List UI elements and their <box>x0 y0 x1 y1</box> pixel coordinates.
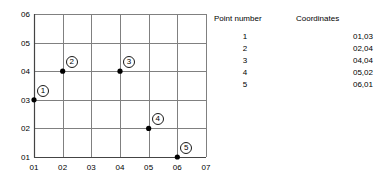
cell-point-number: 3 <box>214 56 276 68</box>
x-axis-tick-label: 01 <box>29 163 38 172</box>
y-axis-tick-label: 06 <box>21 10 30 19</box>
table-header-row: Point number Coordinates <box>214 14 379 32</box>
table-row: 405,02 <box>214 68 379 80</box>
table-row: 304,04 <box>214 56 379 68</box>
column-header-coordinates: Coordinates <box>276 14 379 32</box>
data-point-marker <box>60 69 65 74</box>
cell-coordinates: 01,03 <box>276 32 379 44</box>
y-axis-tick-label: 01 <box>21 153 30 162</box>
x-axis-tick-label: 05 <box>144 163 153 172</box>
scatter-plot-figure: 01020304050607010203040506 12345 <box>0 0 230 189</box>
data-point-marker <box>117 69 122 74</box>
column-header-point-number: Point number <box>214 14 276 32</box>
cell-coordinates: 06,01 <box>276 80 379 92</box>
data-point-marker <box>146 126 151 131</box>
x-axis-tick-label: 03 <box>87 163 96 172</box>
y-axis-tick-label: 02 <box>21 124 30 133</box>
point-label-badge: 3 <box>123 56 135 68</box>
table-row: 202,04 <box>214 44 379 56</box>
cell-point-number: 2 <box>214 44 276 56</box>
x-axis-tick-label: 04 <box>115 163 124 172</box>
point-label-badge: 1 <box>37 85 49 97</box>
point-label-badge: 5 <box>180 142 192 154</box>
point-label-badge: 4 <box>152 113 164 125</box>
y-axis-tick-label: 03 <box>21 95 30 104</box>
data-point-marker <box>31 97 36 102</box>
cell-coordinates: 04,04 <box>276 56 379 68</box>
plot-canvas <box>0 0 230 189</box>
table-row: 101,03 <box>214 32 379 44</box>
cell-point-number: 5 <box>214 80 276 92</box>
cell-coordinates: 05,02 <box>276 68 379 80</box>
x-axis-tick-label: 07 <box>201 163 210 172</box>
y-axis-tick-label: 05 <box>21 38 30 47</box>
table-body: 101,03202,04304,04405,02506,01 <box>214 32 379 92</box>
point-coordinates-table: Point number Coordinates 101,03202,04304… <box>214 14 379 92</box>
data-point-marker <box>175 154 180 159</box>
point-label-badge: 2 <box>66 56 78 68</box>
table-row: 506,01 <box>214 80 379 92</box>
cell-coordinates: 02,04 <box>276 44 379 56</box>
cell-point-number: 4 <box>214 68 276 80</box>
cell-point-number: 1 <box>214 32 276 44</box>
x-axis-tick-label: 02 <box>58 163 67 172</box>
y-axis-tick-label: 04 <box>21 67 30 76</box>
x-axis-tick-label: 06 <box>173 163 182 172</box>
